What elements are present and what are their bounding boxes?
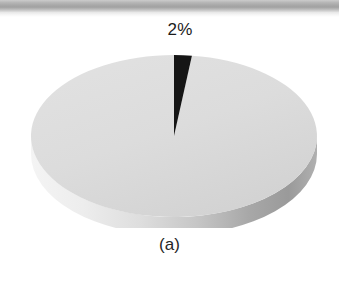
pie-slice-value-label: 2%: [148, 21, 212, 38]
figure-container: 2%: [0, 0, 339, 282]
pie-chart: [29, 44, 317, 228]
figure-caption: (a): [0, 236, 339, 253]
pie-chart-svg: [29, 44, 317, 228]
page-scan-band-shadow: [0, 12, 339, 17]
pie-slice-remainder: [31, 55, 317, 217]
